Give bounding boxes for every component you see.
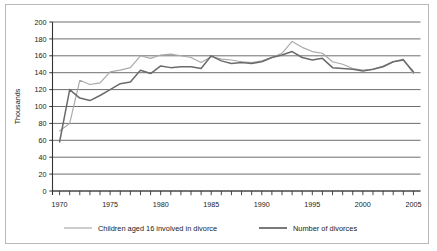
chart-legend: Children aged 16 involved in divorceNumb… [64,224,357,233]
x-tick-label: 1995 [304,200,320,209]
y-tick-label: 180 [35,35,47,44]
gridlines [53,22,421,191]
series-line-1 [60,41,414,131]
y-tick-label: 100 [35,102,47,111]
legend-label-2: Number of divorces [293,224,357,233]
series-line-2 [60,52,414,142]
x-tick-label: 1980 [153,200,169,209]
y-tick-label: 60 [39,136,47,145]
y-tick-label: 40 [39,153,47,162]
x-tick-label: 1990 [254,200,270,209]
x-tick-label: 1970 [52,200,68,209]
y-tick-label: 200 [35,18,47,27]
y-tick-label: 0 [43,187,47,196]
chart-figure: 020406080100120140160180200 197019751980… [0,0,437,251]
x-tick-label: 1985 [203,200,219,209]
y-tick-label: 80 [39,119,47,128]
y-axis-tick-labels: 020406080100120140160180200 [35,18,47,196]
y-tick-label: 120 [35,85,47,94]
y-tick-label: 20 [39,170,47,179]
x-tick-label: 2005 [405,200,421,209]
y-tick-label: 140 [35,68,47,77]
x-tick-label: 2000 [355,200,371,209]
y-axis-title: Thousands [13,88,22,124]
y-axis [49,22,52,195]
x-axis [53,191,421,195]
x-tick-label: 1975 [102,200,118,209]
line-chart: 020406080100120140160180200 197019751980… [0,0,437,251]
x-axis-tick-labels: 19701975198019851990199520002005 [52,200,422,209]
legend-label-1: Children aged 16 involved in divorce [98,224,217,233]
data-series [60,41,414,142]
y-axis-label-text: Thousands [13,88,22,124]
y-tick-label: 160 [35,51,47,60]
